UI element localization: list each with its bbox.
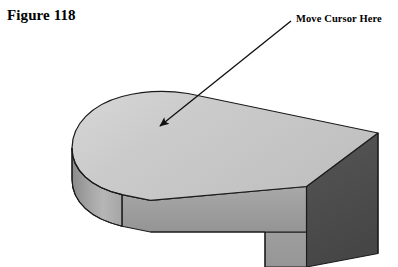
figure-page: Figure 118 Move Cursor Here [0, 0, 398, 267]
lower-leg-front-face [265, 232, 307, 267]
isometric-solid-illustration [0, 0, 398, 267]
solid-body [72, 91, 378, 267]
